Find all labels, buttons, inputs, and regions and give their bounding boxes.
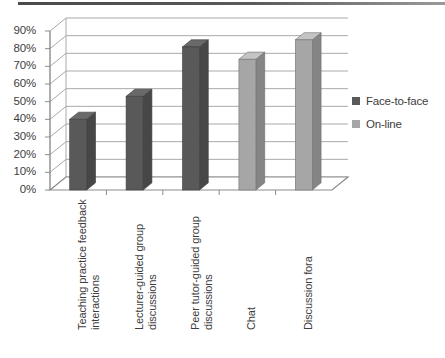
x-axis-label-line2: discussions bbox=[202, 216, 215, 330]
x-axis-label-1: Lecturer-guided groupdiscussions bbox=[133, 224, 159, 330]
bar-chart: 90%80%70%60%50%40%30%20%10%0% Teaching p… bbox=[0, 0, 445, 358]
x-axis-category-labels: Teaching practice feedbackinteractionsLe… bbox=[0, 0, 445, 358]
x-axis-label-line2: discussions bbox=[146, 224, 159, 330]
legend-label: On-line bbox=[366, 118, 402, 130]
x-axis-label-2: Peer tutor-guided groupdiscussions bbox=[189, 216, 215, 330]
x-axis-label-0: Teaching practice feedbackinteractions bbox=[76, 199, 102, 330]
chart-legend: Face-to-faceOn-line bbox=[352, 95, 444, 141]
x-axis-label-line2: interactions bbox=[89, 199, 102, 330]
x-axis-label-line1: Lecturer-guided group bbox=[133, 224, 146, 330]
legend-item-1[interactable]: On-line bbox=[352, 118, 444, 130]
legend-swatch-icon bbox=[352, 120, 360, 128]
x-axis-label-line1: Peer tutor-guided group bbox=[189, 216, 202, 330]
x-axis-label-line1: Chat bbox=[245, 307, 258, 330]
x-axis-label-4: Discussion fora bbox=[302, 256, 315, 330]
x-axis-label-3: Chat bbox=[245, 307, 258, 330]
x-axis-label-line1: Teaching practice feedback bbox=[76, 199, 89, 330]
x-axis-label-line1: Discussion fora bbox=[302, 256, 315, 330]
legend-swatch-icon bbox=[352, 97, 360, 105]
legend-label: Face-to-face bbox=[366, 95, 428, 107]
legend-item-0[interactable]: Face-to-face bbox=[352, 95, 444, 107]
